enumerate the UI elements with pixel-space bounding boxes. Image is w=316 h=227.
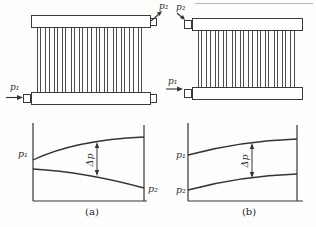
radiator-a-outlet-pressure-label: p₂ xyxy=(159,1,168,11)
graph-a-dp-arrow xyxy=(95,142,99,176)
graph-b-p1-curve xyxy=(188,139,297,155)
radiator-a-bottom-right-plug xyxy=(150,94,157,103)
radiator-a-outlet-nipple xyxy=(150,18,157,26)
radiator-b-tubes xyxy=(198,31,298,87)
radiator-a-inlet-nipple xyxy=(23,94,31,103)
radiator-b-top-header xyxy=(192,18,303,31)
graph-b-p2-curve xyxy=(188,174,297,190)
radiator-b-inlet-nipple xyxy=(184,89,192,98)
radiator-a-inlet-flow-arrow xyxy=(6,95,23,100)
graph-b-dp-arrow xyxy=(250,143,254,178)
caption-a: (a) xyxy=(85,206,99,217)
radiator-b-top-pressure-label: p₂ xyxy=(176,2,185,12)
radiator-b-inlet-pressure-label: p₁ xyxy=(168,76,177,86)
pressure-graph-b: p₁ p₂ Δp (b) xyxy=(170,115,316,227)
graph-b-p2-label: p₂ xyxy=(176,184,186,195)
graph-a-p1-label: p₁ xyxy=(18,148,28,159)
radiator-b-top-flow-arrow xyxy=(177,13,185,20)
pressure-graph-a: p₁ p₂ Δp (a) xyxy=(15,115,165,227)
radiator-a-bottom-header xyxy=(31,92,151,105)
caption-b: (b) xyxy=(242,206,256,217)
radiator-b-top-nipple xyxy=(184,20,192,29)
figure-radiator-connection-schemes: p₁ p₂ p₂ p₁ xyxy=(0,0,316,227)
graph-a-p2-label: p₂ xyxy=(148,183,158,194)
radiator-b-inlet-flow-arrow xyxy=(166,87,183,92)
graph-b-dp-label: Δp xyxy=(239,155,250,169)
scan-artifact-line xyxy=(195,3,313,4)
radiator-a-inlet-pressure-label: p₁ xyxy=(10,82,19,92)
radiator-a-top-header xyxy=(31,15,151,28)
graph-a-p2-curve xyxy=(33,169,144,188)
radiator-b-bottom-header xyxy=(192,87,303,100)
radiator-a-tubes xyxy=(37,28,145,92)
graph-b-p1-label: p₁ xyxy=(176,149,186,160)
graph-a-dp-label: Δp xyxy=(84,154,95,168)
